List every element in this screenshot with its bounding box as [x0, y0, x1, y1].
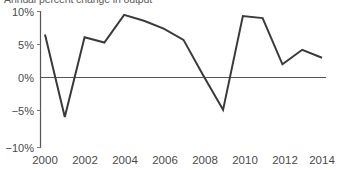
x-axis-label-2006: 2006	[152, 154, 178, 166]
y-axis-label-neg5: −5%	[12, 105, 35, 117]
y-axis-label-5: 5%	[18, 39, 34, 51]
y-axis-label-0: 0%	[18, 72, 34, 84]
line-chart-plot: 10% 5% 0% −5% −10% 2000 2002 2004 2006 2…	[0, 0, 339, 170]
y-axis-label-neg10: −10%	[6, 142, 35, 154]
data-series-line	[45, 15, 322, 117]
x-axis-label-2002: 2002	[72, 154, 98, 166]
chart-screenshot: Annual percent change in output 10% 5% 0…	[0, 0, 339, 170]
x-axis-label-2008: 2008	[192, 154, 218, 166]
x-axis-label-2000: 2000	[32, 154, 58, 166]
x-axis-label-2014: 2014	[309, 154, 335, 166]
x-axis-label-2010: 2010	[232, 154, 258, 166]
y-axis-label-10: 10%	[12, 6, 34, 18]
x-axis-label-2012: 2012	[272, 154, 298, 166]
x-axis-label-2004: 2004	[112, 154, 138, 166]
